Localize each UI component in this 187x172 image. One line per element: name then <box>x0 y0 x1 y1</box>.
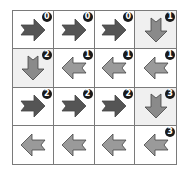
count-badge: 1 <box>123 50 133 60</box>
arrow-grid: 0001211122233 <box>12 10 177 165</box>
grid-cell[interactable] <box>95 126 136 164</box>
count-badge: 3 <box>165 89 175 99</box>
grid-cell[interactable]: 2 <box>13 49 54 87</box>
count-badge: 1 <box>165 12 175 22</box>
left-arrow-icon <box>19 131 47 159</box>
grid-cell[interactable]: 3 <box>135 126 176 164</box>
grid-cell[interactable]: 2 <box>54 88 95 126</box>
grid-cell[interactable]: 0 <box>13 11 54 49</box>
count-badge: 0 <box>42 12 52 22</box>
grid-cell[interactable]: 1 <box>135 11 176 49</box>
left-arrow-icon <box>100 131 128 159</box>
grid-cell[interactable] <box>54 126 95 164</box>
count-badge: 0 <box>83 12 93 22</box>
count-badge: 2 <box>42 50 52 60</box>
count-badge: 2 <box>123 89 133 99</box>
count-badge: 1 <box>165 50 175 60</box>
count-badge: 3 <box>165 127 175 137</box>
grid-cell[interactable]: 1 <box>95 49 136 87</box>
grid-cell[interactable]: 1 <box>54 49 95 87</box>
count-badge: 2 <box>42 89 52 99</box>
count-badge: 0 <box>123 12 133 22</box>
count-badge: 1 <box>83 50 93 60</box>
count-badge: 2 <box>83 89 93 99</box>
grid-cell[interactable]: 0 <box>95 11 136 49</box>
grid-cell[interactable]: 3 <box>135 88 176 126</box>
grid-cell[interactable]: 1 <box>135 49 176 87</box>
grid-cell[interactable]: 0 <box>54 11 95 49</box>
left-arrow-icon <box>60 131 88 159</box>
grid-cell[interactable]: 2 <box>95 88 136 126</box>
grid-cell[interactable]: 2 <box>13 88 54 126</box>
grid-cell[interactable] <box>13 126 54 164</box>
